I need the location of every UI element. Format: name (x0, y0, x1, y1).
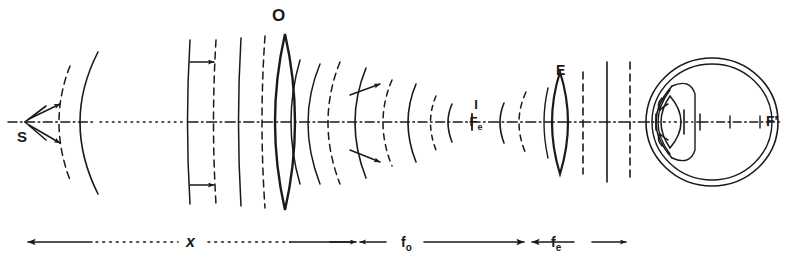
scale-label-fe: fe (551, 234, 561, 253)
converging-wavefront-solid-2 (408, 84, 416, 162)
converging-wavefront-dashed-3 (431, 96, 437, 150)
eyepiece-lens (552, 72, 568, 174)
point-source-marker (25, 104, 60, 143)
converging-wavefront-dashed-2 (383, 80, 392, 166)
image-denominator-subscript: e (477, 122, 482, 132)
diagram-canvas (0, 0, 803, 270)
source-label: S (17, 128, 27, 145)
objective-label: O (272, 6, 286, 26)
convergence-arrow-lower (350, 150, 380, 162)
diverging-wavefront-dashed-after-image (519, 92, 526, 154)
convergence-arrow-upper (350, 84, 380, 95)
diverging-wavefront-solid-after-image (500, 103, 504, 143)
scale-label-fo-sub: o (406, 242, 412, 253)
eyepiece-entry-wavefront (544, 88, 548, 158)
diverging-wavefront-solid (80, 52, 98, 194)
optical-diagram-figure: O E S F' I Fe x fo fe (0, 0, 803, 270)
converging-wavefront-solid-1 (355, 68, 366, 178)
scale-label-fe-sub: e (556, 242, 562, 253)
intermediate-image-label: I Fe (460, 98, 492, 130)
image-numerator: I (460, 98, 492, 112)
far-point-label: F' (766, 113, 778, 129)
scale-label-fo: fo (401, 234, 412, 253)
image-denominator: Fe (460, 112, 492, 130)
converging-wavefront-solid-3 (448, 104, 452, 142)
diverging-wavefront-dashed (59, 66, 70, 180)
scale-label-x: x (186, 233, 195, 251)
eyepiece-label: E (556, 62, 565, 78)
converging-wavefront-dashed-1 (328, 62, 340, 184)
